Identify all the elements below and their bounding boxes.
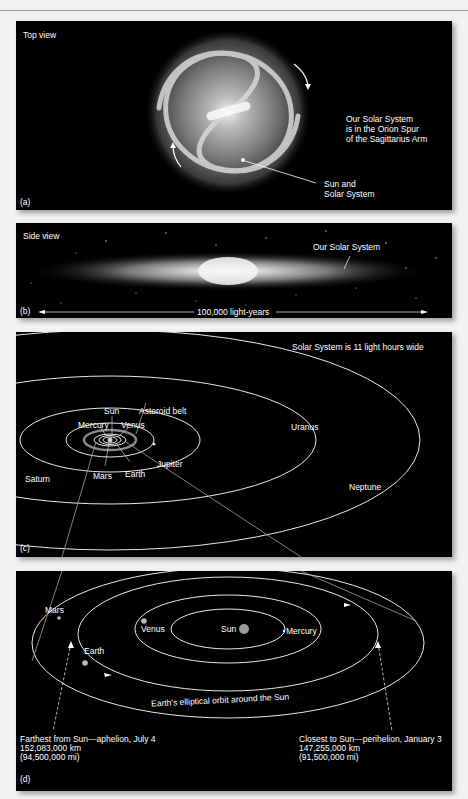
mars-dot [57,616,61,620]
uranus-orbit [16,376,316,504]
label-sun: Sun [104,406,119,416]
label-mercury: Mercury [286,626,317,636]
solar-system-orbits-diagram [16,332,452,557]
solar-system-pointer-label: Our Solar System [313,242,380,252]
panel-a-top-view: Top view Our Solar System is in the Orio… [16,21,452,210]
label-jupiter: Jupiter [157,459,183,469]
label-venus: Venus [141,624,165,634]
label-saturn: Saturn [25,474,50,484]
panel-a-title: Top view [23,30,56,40]
label-earth: Earth [84,646,104,656]
neptune-orbit [16,332,420,550]
orbit-arrow-icon [344,603,351,607]
label-uranus: Uranus [291,422,318,432]
panel-c-title: Solar System is 11 light hours wide [292,342,424,352]
panel-b-title: Side view [23,231,59,241]
label-venus: Venus [121,420,145,430]
panel-d-tag: (d) [20,774,30,784]
panel-b-tag: (b) [20,306,30,316]
label-mars: Mars [45,605,64,615]
venus-dot [141,618,147,624]
scale-label: 100,000 light-years [197,307,269,317]
perihelion-mi: (91,500,000 mi) [299,752,359,762]
aphelion-mi: (94,500,000 mi) [20,752,80,762]
top-rule [0,10,468,11]
panel-d-earth-orbit: Mars Venus Sun Mercury Earth Earth's ell… [16,571,452,791]
panel-c-solar-system: Solar System is 11 light hours wide Sun … [16,332,452,557]
sun-dot [239,624,249,634]
earth-dot [82,660,88,666]
label-mars: Mars [93,471,112,481]
mercury-dot [283,630,285,632]
label-earth: Earth [125,469,145,479]
panel-a-tag: (a) [20,197,30,207]
label-asteroid-belt: Asteroid belt [139,406,186,416]
panel-b-side-view: Side view Our Solar System 100,000 light… [16,223,452,318]
solar-system-location-note: Our Solar System is in the Orion Spur of… [346,114,427,144]
sun-dot [108,438,113,443]
label-sun: Sun [221,624,236,634]
orbit-arrow-icon [104,673,112,677]
sun-pointer-label: Sun and Solar System [324,179,375,199]
label-neptune: Neptune [349,482,381,492]
galaxy-side-view-illustration [16,223,452,318]
arrow-right-icon [421,310,428,314]
label-mercury: Mercury [78,420,109,430]
jupiter-dot [152,442,155,445]
earth-orbit-diagram [16,571,452,791]
arrow-left-icon [38,310,45,314]
earth-orbit [78,577,378,691]
panel-c-tag: (c) [20,543,30,553]
